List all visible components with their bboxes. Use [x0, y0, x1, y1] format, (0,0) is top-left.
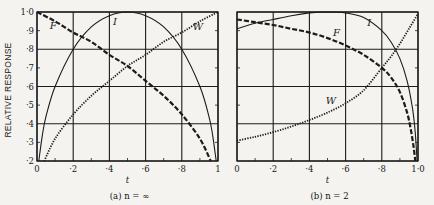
y-tick-label: 1·0: [20, 7, 34, 17]
curve-f: [237, 20, 415, 162]
panel-a: 0·2·4·6·81t(a) n = ∞·2·3·4·5·6·7·8·91·0I…: [20, 7, 220, 201]
x-tick-label: ·6: [142, 164, 150, 174]
y-tick-label: ·4: [26, 119, 34, 129]
x-tick-label: ·8: [178, 164, 186, 174]
curve-w: [237, 14, 418, 141]
curve-label-i: I: [112, 16, 118, 27]
y-tick-label: ·6: [26, 82, 34, 92]
grid: [37, 12, 218, 161]
panel-caption: (a) n = ∞: [110, 191, 149, 201]
panel-caption: (b) n = 2: [310, 191, 348, 201]
x-tick-label: ·2: [269, 164, 277, 174]
y-tick-label: ·7: [26, 63, 34, 73]
x-tick-label: ·4: [305, 164, 313, 174]
curve-label-w: W: [326, 95, 337, 106]
x-tick-label: 1·0: [411, 164, 425, 174]
curve-label-w: W: [193, 21, 204, 32]
y-axis-label: RELATIVE RESPONSE: [3, 42, 13, 137]
y-tick-label: ·3: [26, 137, 34, 147]
figure: RELATIVE RESPONSE 0·2·4·6·81t(a) n = ∞·2…: [0, 0, 434, 205]
x-tick-label: ·4: [105, 164, 113, 174]
x-tick-label: 0: [234, 164, 239, 174]
x-tick-label: 0: [34, 164, 39, 174]
curve-label-f: F: [332, 27, 341, 38]
x-tick-label: 1: [215, 164, 220, 174]
grid: [237, 12, 418, 161]
curve-label-f: F: [49, 20, 58, 31]
y-tick-label: ·9: [26, 26, 34, 36]
x-tick-label: ·8: [378, 164, 386, 174]
panel-b: 0·2·4·6·81·0t(b) n = 2IFW: [234, 12, 424, 201]
x-tick-label: ·2: [69, 164, 77, 174]
x-axis-label: t: [326, 175, 330, 185]
x-axis-label: t: [126, 175, 130, 185]
x-tick-label: ·6: [342, 164, 350, 174]
y-tick-label: ·8: [26, 44, 34, 54]
y-tick-label: ·5: [26, 100, 34, 110]
y-tick-label: ·2: [26, 156, 34, 166]
